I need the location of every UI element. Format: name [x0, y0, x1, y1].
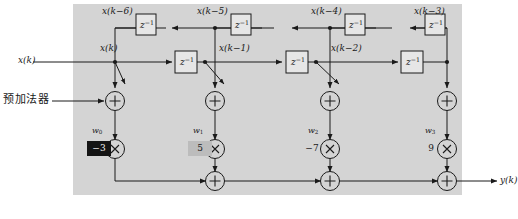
weight-value-w1[interactable]: 5: [188, 141, 212, 156]
signal-label-delay-1: x(k−1): [219, 44, 250, 53]
weight-label-w0: w0: [92, 127, 102, 136]
delay-label-z-top-4: z−1: [349, 20, 363, 30]
weight-value-w3[interactable]: 9: [419, 141, 443, 156]
weight-value-w0[interactable]: −3: [87, 141, 111, 156]
junction-delay3-tap: [445, 60, 449, 64]
delay-label-z-mid-3: z−1: [406, 57, 420, 67]
weight-value-w2[interactable]: −7: [300, 141, 324, 156]
signal-label-delay-2: x(k−2): [331, 44, 362, 53]
junction-input-tap: [113, 60, 117, 64]
weight-label-w2: w2: [308, 127, 318, 136]
delay-label-z-top-2: z−1: [140, 20, 154, 30]
signal-label-output: y(k): [500, 176, 518, 185]
signal-label-delay-5: x(k−5): [197, 7, 228, 16]
junction-delay1-tap: [203, 60, 207, 64]
signal-flow-diagram: [0, 0, 518, 219]
junction-delay2-tap: [314, 60, 318, 64]
signal-label-delay-3: x(k−3): [414, 7, 445, 16]
signal-label-tap-top: x(k): [100, 44, 118, 53]
signal-label-delay-6: x(k−6): [102, 7, 133, 16]
diagram-panel: [73, 4, 462, 195]
weight-label-w1: w1: [193, 127, 203, 136]
pre-adder-annotation: 预加法器: [3, 94, 49, 105]
figure-canvas: z−1 z−1 z−1 z−1 z−1 z−1 z−1 x(k−6) x(k−5…: [0, 0, 518, 219]
delay-label-z-top-3: z−1: [235, 20, 249, 30]
delay-label-z-top-1: z−1: [429, 20, 443, 30]
delay-label-z-mid-1: z−1: [180, 57, 194, 67]
signal-label-input: x(k): [18, 56, 36, 65]
delay-label-z-mid-2: z−1: [291, 57, 305, 67]
signal-label-delay-4: x(k−4): [311, 7, 342, 16]
weight-label-w3: w3: [425, 127, 435, 136]
